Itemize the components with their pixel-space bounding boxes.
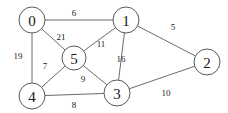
edge-weight-0-4: 19 (14, 51, 24, 61)
edge-weight-1-5: 11 (97, 39, 106, 49)
graph-node-4[interactable]: 4 (19, 83, 45, 109)
edge-weight-1-3: 16 (117, 54, 127, 64)
edge-weight-0-5: 21 (57, 32, 66, 42)
edge-weight-4-5: 7 (43, 61, 48, 71)
graph-node-5[interactable]: 5 (62, 46, 86, 70)
graph-diagram-canvas: 012345 621195111679810 (0, 0, 228, 113)
graph-node-3[interactable]: 3 (104, 80, 130, 106)
node-label-4: 4 (28, 89, 36, 105)
graph-node-2[interactable]: 2 (194, 49, 220, 75)
edge-weight-1-2: 5 (171, 22, 176, 32)
graph-node-0[interactable]: 0 (19, 7, 45, 33)
node-label-1: 1 (122, 13, 130, 29)
graph-edge-1-2 (138, 26, 196, 56)
node-label-0: 0 (28, 13, 36, 29)
graph-svg: 012345 621195111679810 (0, 0, 228, 113)
edge-weight-0-1: 6 (72, 8, 77, 18)
graph-node-1[interactable]: 1 (113, 7, 139, 33)
node-label-2: 2 (203, 55, 211, 71)
edge-weight-5-3: 9 (81, 74, 86, 84)
node-label-5: 5 (70, 51, 78, 67)
edge-weight-4-3: 8 (72, 100, 77, 110)
node-label-3: 3 (113, 86, 121, 102)
graph-edge-4-3 (45, 93, 104, 95)
edge-weight-3-2: 10 (162, 88, 172, 98)
graph-edge-3-2 (129, 66, 194, 89)
graph-edge-5-3 (83, 66, 107, 85)
